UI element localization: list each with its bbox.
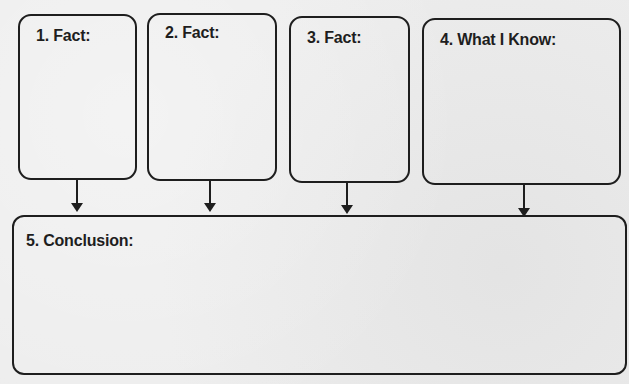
fact-box-2[interactable]: 2. Fact:: [147, 13, 277, 181]
what-i-know-box-label: 4. What I Know:: [440, 31, 556, 49]
arrow-down-icon: [204, 181, 216, 212]
arrow-down-icon: [71, 180, 83, 212]
fact-box-2-label: 2. Fact:: [165, 24, 219, 42]
fact-box-1[interactable]: 1. Fact:: [18, 14, 137, 180]
fact-box-1-label: 1. Fact:: [36, 27, 90, 45]
conclusion-box-label: 5. Conclusion:: [26, 232, 133, 250]
arrow-down-icon: [518, 185, 530, 217]
fact-box-3-label: 3. Fact:: [307, 29, 361, 47]
conclusion-box[interactable]: 5. Conclusion:: [12, 215, 627, 375]
arrow-down-icon: [341, 183, 353, 214]
what-i-know-box[interactable]: 4. What I Know:: [422, 18, 621, 185]
fact-box-3[interactable]: 3. Fact:: [289, 16, 410, 183]
